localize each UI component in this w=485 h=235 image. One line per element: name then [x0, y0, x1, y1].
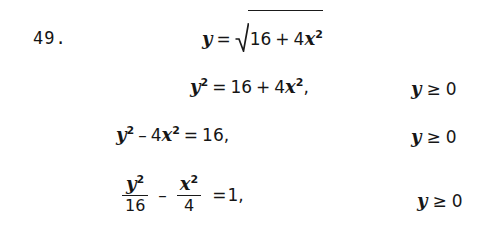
- problem-number: 49.: [33, 28, 67, 48]
- step-3-rhs-value: 16: [202, 125, 224, 145]
- radicand-operator: +: [271, 29, 293, 49]
- step-3-relation: =: [180, 125, 202, 145]
- fraction-y-squared-over-16: y2 16: [122, 175, 148, 214]
- step-3-lhs-term-2-coefficient: 4: [151, 125, 162, 145]
- constraint-3-value: 0: [446, 127, 457, 147]
- step-2-lhs-variable: y: [190, 76, 200, 97]
- equation-step-2: y2=16+4x2,: [190, 78, 309, 96]
- radicand-term-2-exponent: 2: [315, 28, 323, 41]
- step-2-rhs-operator: +: [252, 77, 274, 97]
- step-2-rhs-term-1: 16: [230, 77, 252, 97]
- constraint-2-relation: ≥: [421, 79, 445, 99]
- step-3-lhs-operator: –: [134, 125, 151, 145]
- constraint-step-3: y≥0: [411, 126, 457, 147]
- equation-step-3: y2–4x2=16,: [116, 126, 229, 144]
- radical-sign: [235, 22, 249, 52]
- step-3-lhs-term-1-exponent: 2: [126, 124, 134, 137]
- step-1-relation: =: [212, 29, 234, 49]
- step-4-operator: –: [150, 185, 175, 205]
- step-2-lhs-exponent: 2: [200, 76, 208, 89]
- constraint-step-2: y≥0: [411, 78, 457, 99]
- fraction-2-denominator: 4: [177, 196, 201, 215]
- constraint-3-variable: y: [411, 126, 421, 147]
- constraint-2-variable: y: [411, 78, 421, 99]
- fraction-2-numerator-variable: x: [180, 173, 191, 194]
- step-1-lhs: y: [202, 28, 212, 49]
- step-3-lhs-term-1-variable: y: [116, 124, 126, 145]
- constraint-4-variable: y: [417, 190, 427, 211]
- step-4-comma: ,: [238, 185, 243, 205]
- fraction-x-squared-over-4: x2 4: [177, 175, 201, 214]
- step-2-rhs-term-2-coefficient: 4: [274, 77, 285, 97]
- square-root-expression: 16+4x2: [235, 30, 323, 48]
- constraint-4-value: 0: [452, 191, 463, 211]
- fraction-1-numerator-variable: y: [126, 173, 136, 194]
- step-2-relation: =: [208, 77, 230, 97]
- radicand-term-2-variable: x: [304, 28, 315, 49]
- constraint-4-relation: ≥: [427, 191, 451, 211]
- step-3-comma: ,: [224, 125, 229, 145]
- equation-step-1: y=16+4x2: [202, 30, 323, 48]
- equation-step-4: y2 16 – x2 4 =1,: [120, 176, 244, 215]
- constraint-2-value: 0: [446, 79, 457, 99]
- step-2-comma: ,: [303, 77, 308, 97]
- fraction-1-denominator: 16: [122, 196, 148, 215]
- radical-vinculum: [248, 10, 323, 11]
- fraction-1-numerator: y2: [122, 175, 148, 195]
- step-3-lhs-term-2-variable: x: [161, 124, 172, 145]
- radicand: 16+4x2: [250, 30, 323, 48]
- constraint-step-4: y≥0: [417, 190, 463, 211]
- constraint-3-relation: ≥: [421, 127, 445, 147]
- radicand-term-2-coefficient: 4: [294, 29, 305, 49]
- fraction-2-numerator: x2: [177, 175, 201, 195]
- step-3-lhs-term-2-exponent: 2: [172, 124, 180, 137]
- solution-page: 49. y=16+4x2 y2=16+4x2, y≥0 y2–4x2=16, y…: [0, 0, 485, 235]
- fraction-1-numerator-exponent: 2: [137, 173, 145, 186]
- step-4-relation: =: [203, 185, 227, 205]
- step-2-rhs-term-2-variable: x: [285, 76, 296, 97]
- radicand-term-1-coefficient: 16: [250, 29, 272, 49]
- step-4-rhs-value: 1: [228, 185, 239, 205]
- fraction-2-numerator-exponent: 2: [191, 173, 199, 186]
